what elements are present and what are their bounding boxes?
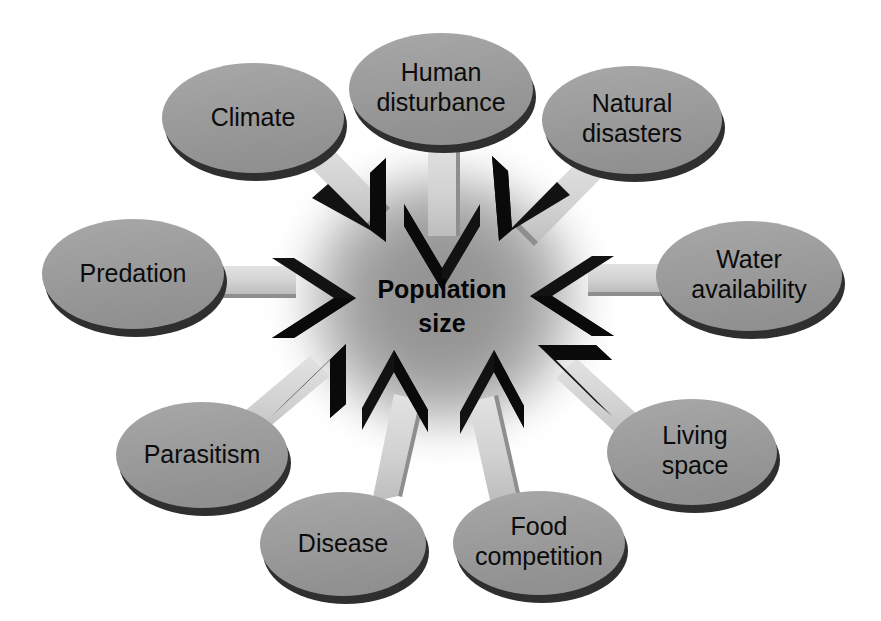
node-living-space[interactable]: Living space xyxy=(607,399,780,513)
node-label-human-disturbance-line2: disturbance xyxy=(376,88,505,116)
node-label-natural-disasters-line2: disasters xyxy=(582,119,682,147)
node-water-availability[interactable]: Water availability xyxy=(656,221,845,339)
node-label-living-space-line2: space xyxy=(662,451,729,479)
node-label-disease: Disease xyxy=(298,529,388,557)
node-food-competition[interactable]: Food competition xyxy=(453,491,628,603)
diagram-canvas: Climate Human disturbance Natural disast… xyxy=(0,0,881,621)
node-predation[interactable]: Predation xyxy=(42,219,227,337)
node-label-natural-disasters-line1: Natural xyxy=(592,89,673,117)
node-label-living-space-line1: Living xyxy=(662,421,727,449)
node-parasitism[interactable]: Parasitism xyxy=(116,402,291,516)
node-label-human-disturbance-line1: Human xyxy=(401,58,482,86)
center-label-line1: Population xyxy=(377,275,506,303)
node-disease[interactable]: Disease xyxy=(260,492,429,604)
population-size-diagram: Climate Human disturbance Natural disast… xyxy=(0,0,881,621)
node-label-parasitism: Parasitism xyxy=(144,440,261,468)
node-climate[interactable]: Climate xyxy=(162,63,347,181)
node-label-water-availability-line1: Water xyxy=(716,245,782,273)
node-label-food-competition-line2: competition xyxy=(475,542,603,570)
node-label-climate: Climate xyxy=(211,103,296,131)
node-natural-disasters[interactable]: Natural disasters xyxy=(542,66,725,182)
center-label-line2: size xyxy=(418,309,465,337)
node-label-food-competition-line1: Food xyxy=(511,512,568,540)
node-human-disturbance[interactable]: Human disturbance xyxy=(349,33,536,153)
node-label-predation: Predation xyxy=(79,259,186,287)
node-label-water-availability-line2: availability xyxy=(691,275,807,303)
